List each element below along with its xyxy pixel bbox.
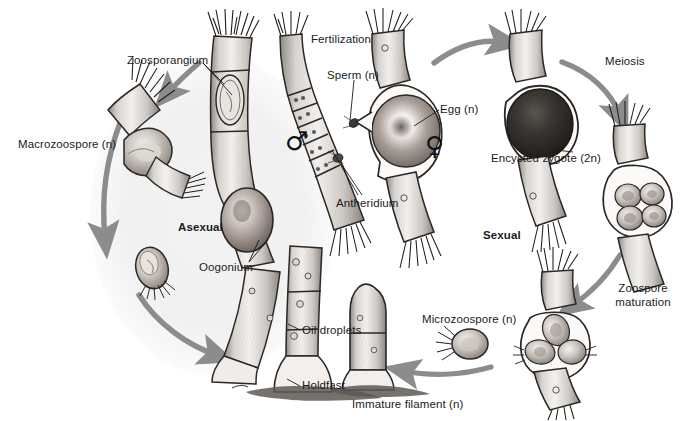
label-zoospore-maturation-line1: Zoospore — [618, 282, 667, 294]
label-zoospore-maturation-line2: maturation — [615, 296, 670, 308]
arrow-fertilization-to-zygote — [434, 41, 503, 63]
free-microzoospore — [436, 326, 488, 360]
label-macrozoospore: Macrozoospore (n) — [18, 138, 116, 151]
arrow-to-immature-filament — [404, 367, 491, 374]
label-fertilization: Fertilization — [311, 33, 371, 46]
male-symbol: ♂ — [285, 128, 308, 154]
label-meiosis: Meiosis — [605, 55, 645, 68]
label-antheridium: Antheridium — [336, 197, 398, 210]
label-asexual: Asexual — [178, 221, 223, 234]
label-microzoospore: Microzoospore (n) — [422, 313, 516, 326]
label-holdfast: Holdfast — [302, 379, 345, 392]
diagram-artwork — [0, 0, 684, 421]
zoospore-release-body — [513, 247, 597, 420]
immature-filament-body — [330, 284, 430, 397]
label-zoospore-maturation: Zoospore maturation — [610, 282, 676, 309]
label-sexual: Sexual — [483, 229, 521, 242]
label-encysted-zygote: Encysted zygote (2n) — [491, 152, 601, 165]
label-immature-filament: Immature filament (n) — [352, 398, 463, 411]
female-symbol: ♀ — [425, 133, 444, 159]
label-oogonium: Oogonium — [199, 261, 253, 274]
label-oil-droplets: Oil droplets — [302, 324, 361, 337]
label-egg: Egg (n) — [440, 103, 478, 116]
label-sperm: Sperm (n) — [327, 69, 379, 82]
label-zoosporangium: Zoosporangium — [127, 54, 208, 67]
life-cycle-diagram: Macrozoospore (n) Zoosporangium Oogonium… — [0, 0, 684, 421]
leader-sperm — [350, 80, 354, 121]
encysted-zygote-body — [505, 9, 578, 252]
